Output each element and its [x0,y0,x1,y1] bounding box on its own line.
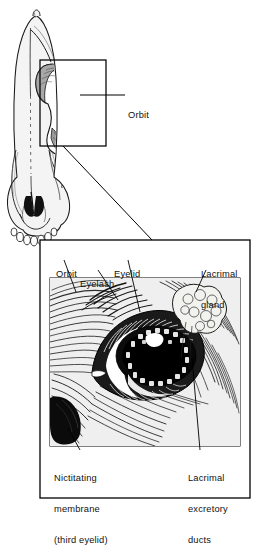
label-lacrimal-ducts-line2: excretory [188,504,228,514]
label-eyelid: Eyelid [114,248,140,290]
label-nictitating-line1: Nictitating [54,473,108,483]
label-orbit-detail-text: Orbit [56,269,77,279]
label-orbit-detail: Orbit [56,248,77,290]
label-nictitating-membrane: Nictitating membrane (third eyelid) [54,452,108,549]
label-eyelash: Eyelash [80,258,114,300]
detail-leader-line [63,146,152,240]
label-orbit-skull: Orbit [128,89,149,131]
label-lacrimal-excretory-ducts: Lacrimal excretory ducts [188,452,228,549]
label-lacrimal-ducts-line1: Lacrimal [188,473,228,483]
label-nictitating-line2: membrane [54,504,108,514]
label-orbit-skull-text: Orbit [128,110,149,120]
label-lacrimal-gland: Lacrimal gland [201,248,238,321]
label-eyelash-text: Eyelash [80,279,114,289]
label-eyelid-text: Eyelid [114,269,140,279]
label-lacrimal-gland-line2: gland [201,300,238,310]
label-lacrimal-gland-line1: Lacrimal [201,269,238,279]
label-nictitating-line3: (third eyelid) [54,535,108,545]
label-lacrimal-ducts-line3: ducts [188,535,228,545]
